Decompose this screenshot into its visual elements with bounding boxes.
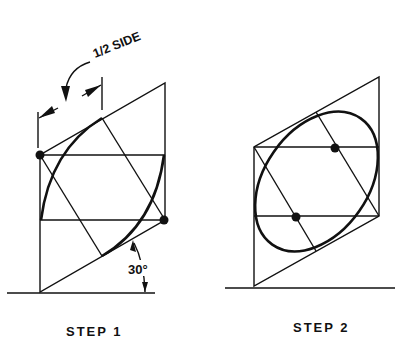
step2-center-dot-upper <box>331 144 340 153</box>
step1-center-dot-bottom-right <box>160 216 169 225</box>
step2-isometric-ellipse <box>230 89 404 275</box>
step1-leader-curve <box>66 62 90 88</box>
step1-dim-arrow-right <box>85 85 101 97</box>
step1-construction-line-2 <box>102 118 165 220</box>
step1-construction-line-1 <box>40 155 102 256</box>
step1-left-arc <box>41 118 102 220</box>
step2-label: STEP 2 <box>293 320 350 335</box>
step2-rhombus <box>254 77 379 286</box>
step2-center-dot-lower <box>292 213 301 222</box>
isometric-ellipse-diagram: 1/2 SIDE 30° STEP 1 STEP 2 <box>0 0 405 360</box>
step2-figure: STEP 2 <box>225 77 403 335</box>
step1-leader-arrowhead <box>61 86 70 102</box>
step1-figure: 1/2 SIDE 30° STEP 1 <box>7 29 169 339</box>
step1-angle-label: 30° <box>128 262 148 277</box>
step1-dim-arrow-left <box>39 106 55 118</box>
step1-center-dot-top-left <box>36 151 45 160</box>
step1-angle-arrow-bottom <box>142 282 148 292</box>
step1-label: STEP 1 <box>66 324 123 339</box>
step1-dimension-label: 1/2 SIDE <box>91 29 143 61</box>
